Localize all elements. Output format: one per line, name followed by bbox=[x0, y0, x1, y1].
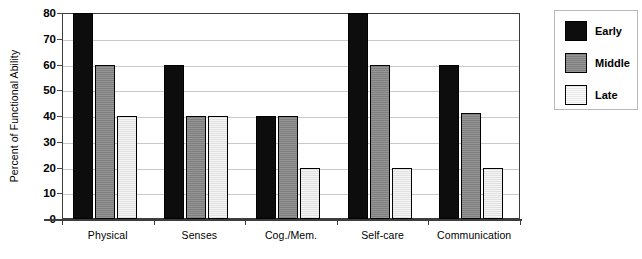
x-axis-tick-label: Physical bbox=[88, 229, 128, 241]
x-axis-tick-label: Cog./Mem. bbox=[265, 229, 317, 241]
y-axis-tick-label: 60 bbox=[20, 60, 56, 70]
bar-late-communication[interactable] bbox=[483, 168, 503, 220]
x-axis-tick-label: Senses bbox=[182, 229, 218, 241]
gridline bbox=[63, 40, 519, 41]
bar-late-physical[interactable] bbox=[117, 116, 137, 219]
legend-label: Middle bbox=[595, 57, 630, 69]
bar-early-self-care[interactable] bbox=[348, 13, 368, 219]
x-axis-tick bbox=[62, 219, 63, 225]
bar-chart: Percent of Functional Ability 0102030405… bbox=[0, 0, 642, 259]
legend-swatch-middle-icon bbox=[565, 53, 587, 73]
x-axis-tick bbox=[337, 219, 338, 225]
legend-item-late[interactable]: Late bbox=[565, 85, 618, 105]
x-axis-tick bbox=[520, 219, 521, 225]
y-axis-tick-label: 20 bbox=[20, 163, 56, 173]
x-axis-tick-label: Communication bbox=[437, 229, 511, 241]
legend-swatch-early-icon bbox=[565, 21, 587, 41]
legend: EarlyMiddleLate bbox=[554, 10, 638, 110]
bar-middle-self-care[interactable] bbox=[370, 65, 390, 220]
bar-middle-senses[interactable] bbox=[186, 116, 206, 219]
bar-early-senses[interactable] bbox=[164, 65, 184, 220]
legend-item-middle[interactable]: Middle bbox=[565, 53, 630, 73]
bar-middle-physical[interactable] bbox=[95, 65, 115, 220]
x-axis-line bbox=[44, 219, 522, 221]
bar-early-physical[interactable] bbox=[73, 13, 93, 219]
y-axis-tick-label: 10 bbox=[20, 188, 56, 198]
bar-late-self-care[interactable] bbox=[392, 168, 412, 220]
legend-item-early[interactable]: Early bbox=[565, 21, 622, 41]
legend-label: Early bbox=[595, 25, 622, 37]
bar-middle-cog-mem[interactable] bbox=[278, 116, 298, 219]
legend-swatch-late-icon bbox=[565, 85, 587, 105]
x-axis-tick bbox=[428, 219, 429, 225]
y-axis-tick-label: 30 bbox=[20, 137, 56, 147]
x-axis-tick bbox=[154, 219, 155, 225]
y-axis-tick-label: 40 bbox=[20, 111, 56, 121]
bar-late-cog-mem[interactable] bbox=[300, 168, 320, 220]
y-axis-tick-label: 80 bbox=[20, 8, 56, 18]
y-axis-tick-label: 70 bbox=[20, 34, 56, 44]
x-axis-tick bbox=[245, 219, 246, 225]
bar-early-communication[interactable] bbox=[439, 65, 459, 220]
y-axis-tick-labels: 01020304050607080 bbox=[20, 13, 56, 219]
legend-label: Late bbox=[595, 89, 618, 101]
bar-late-senses[interactable] bbox=[208, 116, 228, 219]
y-axis-tick-label: 50 bbox=[20, 85, 56, 95]
x-axis-tick-label: Self-care bbox=[361, 229, 404, 241]
bar-middle-communication[interactable] bbox=[461, 113, 481, 219]
bar-early-cog-mem[interactable] bbox=[256, 116, 276, 219]
